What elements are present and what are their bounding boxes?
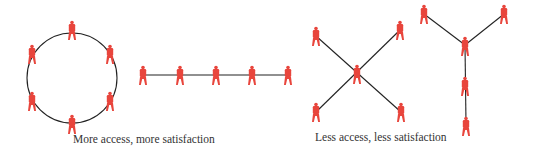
hub-person-icon (353, 65, 361, 84)
wheel-network (312, 21, 405, 122)
person-icon (176, 66, 184, 85)
chain-network (139, 66, 292, 85)
communication-networks-diagram (0, 0, 533, 150)
caption-less-access: Less access, less satisfaction (315, 131, 447, 143)
person-icon (284, 66, 292, 85)
circle-network (27, 21, 117, 134)
person-icon (212, 66, 220, 85)
person-icon (139, 66, 147, 85)
person-icon (312, 103, 320, 122)
person-icon (28, 92, 36, 111)
person-icon (396, 21, 404, 40)
person-icon (106, 92, 114, 111)
person-icon (312, 27, 320, 46)
person-icon (68, 115, 76, 134)
person-icon (68, 21, 76, 40)
y-line (424, 14, 465, 45)
circle-line (27, 33, 117, 123)
y-line (465, 14, 504, 45)
person-icon (500, 5, 508, 24)
person-icon (106, 45, 114, 64)
person-icon (420, 5, 428, 24)
caption-more-access: More access, more satisfaction (73, 133, 215, 145)
person-icon (462, 117, 470, 136)
person-icon (397, 103, 405, 122)
person-icon (248, 66, 256, 85)
person-icon (28, 45, 36, 64)
y-network (420, 5, 508, 136)
person-icon (461, 77, 469, 96)
